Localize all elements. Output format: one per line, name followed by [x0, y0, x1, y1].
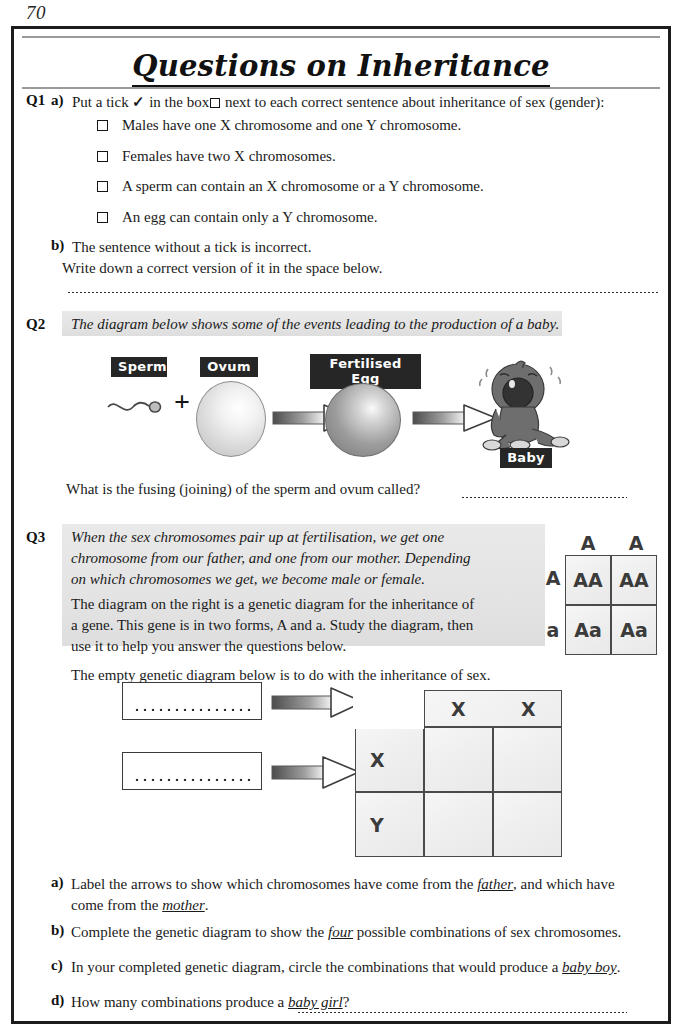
tag-ovum: Ovum	[200, 357, 258, 377]
tick-icon: ✓	[132, 95, 145, 110]
empty-grid-cell-1-2[interactable]	[493, 727, 562, 792]
ovum-illustration	[196, 381, 266, 457]
header-rule-top	[22, 36, 660, 38]
page-title-text: Questions on Inheritance	[132, 49, 550, 88]
tag-baby: Baby	[500, 448, 552, 468]
q3-italic-line-1: When the sex chromosomes pair up at fert…	[71, 527, 444, 548]
q2-intro-text: The diagram below shows some of the even…	[71, 314, 559, 335]
q3-label: Q3	[26, 529, 45, 546]
q1-stem-pre: Put a tick	[72, 94, 129, 110]
q3-part-c-label: c)	[51, 957, 63, 974]
empty-grid-side-label-1: X	[370, 749, 385, 771]
example-grid-cell-2-2: Aa	[611, 605, 657, 655]
example-grid-top-label-2: A	[626, 532, 646, 554]
baby-illustration-icon	[476, 359, 576, 457]
arrow-label-box-2[interactable]	[122, 752, 262, 790]
q3-part-a-label: a)	[51, 874, 64, 891]
q1-stem-mid: in the box	[149, 94, 209, 110]
q1-label: Q1	[26, 92, 45, 109]
checkbox-option-1[interactable]	[97, 120, 108, 131]
q1-option-4-label: An egg can contain only a Y chromosome.	[122, 207, 377, 228]
q2-label: Q2	[26, 316, 45, 333]
empty-grid-cell-2-1[interactable]	[424, 792, 493, 857]
q3-part-a-line-1: Label the arrows to show which chromosom…	[71, 874, 615, 895]
q3-part-c-line-1: In your completed genetic diagram, circl…	[71, 957, 620, 978]
q3-roman-line-2: a gene. This gene is in two forms, A and…	[71, 615, 473, 636]
q1-option-2-label: Females have two X chromosomes.	[122, 146, 336, 167]
example-grid-side-label-2: a	[544, 619, 562, 641]
example-grid-side-label-1: A	[544, 567, 562, 589]
q2-answer-line[interactable]	[461, 495, 627, 498]
arrow-label-box-1[interactable]	[122, 682, 262, 720]
q3-part-b-label: b)	[51, 922, 64, 939]
empty-grid-side-label-1-cell: X	[355, 727, 424, 792]
grid-corner-mask	[353, 688, 424, 729]
q3-roman-line-3: use it to help you answer the questions …	[71, 636, 346, 657]
q1-part-a-label: a)	[51, 92, 64, 109]
q1-stem: Put a tick ✓ in the box next to each cor…	[72, 92, 672, 113]
empty-grid-top-label-x1: X	[451, 698, 466, 720]
q3-roman-line-1: The diagram on the right is a genetic di…	[71, 594, 474, 615]
q1-b-line-2: Write down a correct version of it in th…	[62, 258, 382, 279]
q3-italic-line-3: on which chromosomes we get, we become m…	[71, 569, 425, 590]
plus-sign: +	[174, 388, 190, 416]
page-title: Questions on Inheritance	[14, 49, 668, 83]
empty-grid-cell-1-1[interactable]	[424, 727, 493, 792]
example-grid-cell-1-1: AA	[565, 555, 611, 605]
empty-grid-side-label-2: Y	[370, 814, 384, 836]
q1-part-b-label: b)	[51, 237, 64, 254]
arrow-label-box-2-dots	[133, 777, 255, 781]
fertilised-egg-illustration	[325, 383, 401, 457]
empty-grid-top-header-row: X X	[424, 690, 562, 727]
q3-part-d-answer-line[interactable]	[297, 1010, 627, 1013]
checkbox-icon-inline	[210, 98, 220, 108]
example-grid-cell-1-2: AA	[611, 555, 657, 605]
empty-grid-cell-2-2[interactable]	[493, 792, 562, 857]
page-number: 70	[26, 2, 46, 24]
arrow-to-left-column-icon	[271, 754, 367, 790]
q1-option-1-label: Males have one X chromosome and one Y ch…	[122, 115, 461, 136]
checkbox-option-3[interactable]	[97, 181, 108, 192]
empty-grid-side-label-2-cell: Y	[355, 792, 424, 857]
checkbox-option-4[interactable]	[97, 212, 108, 223]
checkbox-option-2[interactable]	[97, 151, 108, 162]
q3-part-d-label: d)	[51, 992, 64, 1009]
q2-question-text: What is the fusing (joining) of the sper…	[66, 479, 420, 500]
q3-part-a-line-2: come from the mother.	[71, 895, 208, 916]
tag-sperm: Sperm	[111, 357, 167, 377]
worksheet-frame: Questions on Inheritance Q1 a) Put a tic…	[11, 26, 671, 1024]
header-rule-bottom	[22, 87, 660, 89]
q1-stem-post: next to each correct sentence about inhe…	[225, 94, 604, 110]
example-grid-cell-2-1: Aa	[565, 605, 611, 655]
q1-option-3-label: A sperm can contain an X chromosome or a…	[122, 176, 484, 197]
q3-part-b-line-1: Complete the genetic diagram to show the…	[71, 922, 621, 943]
arrow-label-box-1-dots	[133, 707, 255, 711]
sperm-icon	[105, 393, 167, 419]
q3-italic-line-2: chromosome from our father, and one from…	[71, 548, 471, 569]
empty-grid-top-label-x2: X	[521, 698, 536, 720]
example-grid-top-label-1: A	[578, 532, 598, 554]
q1-b-line-1: The sentence without a tick is incorrect…	[72, 237, 312, 258]
q1-answer-line[interactable]	[67, 290, 658, 293]
